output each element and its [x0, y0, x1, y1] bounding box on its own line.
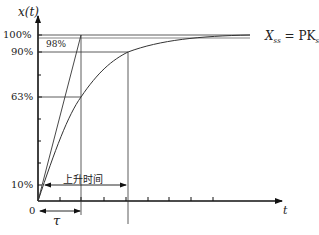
y-axis-label: x(t) — [18, 6, 39, 18]
tick-90: 90% — [11, 47, 33, 57]
steady-state-label: Xss = PKss — [265, 30, 319, 45]
label-98: 98% — [46, 40, 66, 49]
tick-0: 0 — [29, 206, 35, 216]
rise-time-label: 上升时间 — [63, 175, 103, 185]
x-axis-label: t — [283, 205, 287, 216]
tick-100: 100% — [3, 30, 32, 40]
tick-63: 63% — [11, 92, 33, 102]
tick-10: 10% — [11, 180, 33, 190]
tau-label: τ — [53, 214, 60, 227]
